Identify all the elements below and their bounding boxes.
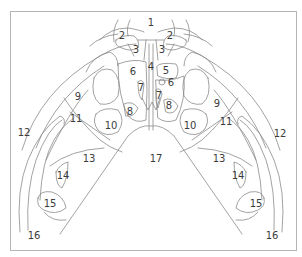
structure-label-10: 10	[105, 121, 118, 131]
structure-label-14: 14	[57, 171, 70, 181]
structure-label-6: 6	[130, 67, 136, 77]
structure-label-11: 11	[220, 117, 233, 127]
structure-label-14: 14	[232, 171, 245, 181]
structure-label-17: 17	[150, 154, 163, 164]
structure-label-7: 7	[156, 91, 162, 101]
structure-label-9: 9	[75, 92, 81, 102]
structure-label-11: 11	[70, 114, 83, 124]
structure-label-7: 7	[138, 83, 144, 93]
structure-label-12: 12	[18, 128, 31, 138]
structure-label-13: 13	[83, 154, 96, 164]
structure-label-13: 13	[213, 154, 226, 164]
structure-label-2: 2	[119, 31, 125, 41]
structure-label-4: 4	[148, 62, 154, 72]
structure-label-16: 16	[28, 231, 41, 241]
structure-label-15: 15	[250, 199, 263, 209]
structure-label-8: 8	[127, 107, 133, 117]
structure-label-12: 12	[274, 129, 287, 139]
structure-label-1: 1	[148, 18, 154, 28]
diagram-frame	[11, 12, 297, 251]
structure-label-3: 3	[133, 45, 139, 55]
structure-label-8: 8	[166, 101, 172, 111]
structure-label-2: 2	[167, 31, 173, 41]
structure-label-6: 6	[168, 78, 174, 88]
structure-label-3: 3	[159, 45, 165, 55]
anatomy-diagram	[0, 0, 302, 257]
structure-label-15: 15	[44, 199, 57, 209]
structure-label-16: 16	[266, 231, 279, 241]
structure-label-9: 9	[214, 99, 220, 109]
diagram-lines	[19, 20, 283, 234]
structure-label-10: 10	[184, 121, 197, 131]
structure-label-5: 5	[163, 66, 169, 76]
